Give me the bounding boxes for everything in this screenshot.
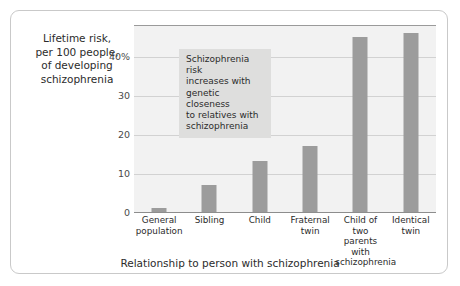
chart-figure: Lifetime risk, per 100 people, of develo… — [10, 10, 448, 274]
bar-sibling[interactable] — [202, 185, 217, 212]
category-label-line: twin — [386, 226, 436, 237]
annotation-line: to relatives with — [186, 110, 265, 121]
annotation-line: Schizophrenia risk — [186, 54, 265, 76]
category-label-line: Child — [235, 215, 285, 226]
category-label-line: parents with — [335, 236, 385, 257]
bar-child[interactable] — [252, 161, 267, 212]
bar-slot — [285, 25, 335, 212]
bar-slot — [335, 25, 385, 212]
x-axis-category-labels: GeneralpopulationSiblingChildFraternaltw… — [134, 215, 436, 257]
category-label-line: Child of two — [335, 215, 385, 236]
category-label-line: Sibling — [184, 215, 234, 226]
category-label: Identicaltwin — [386, 215, 436, 236]
annotation-line: schizophrenia — [186, 121, 265, 132]
y-tick-label-40: 40% — [90, 51, 130, 62]
bar-slot — [386, 25, 436, 212]
bar-slot — [134, 25, 184, 212]
category-label-line: General — [134, 215, 184, 226]
y-tick-label-0: 0 — [90, 207, 130, 218]
annotation-line: genetic closeness — [186, 88, 265, 110]
category-label-line: Fraternal — [285, 215, 335, 226]
category-label: Child — [235, 215, 285, 226]
category-label-line: population — [134, 226, 184, 237]
y-tick-label-20: 20 — [90, 129, 130, 140]
category-label: Sibling — [184, 215, 234, 226]
x-axis-line — [134, 212, 436, 213]
x-axis-title: Relationship to person with schizophreni… — [11, 257, 449, 269]
y-tick-label-10: 10 — [90, 168, 130, 179]
bar-child-of-two-parents-with-schizophrenia[interactable] — [353, 37, 368, 212]
y-axis-tick-labels: 010203040% — [86, 11, 130, 275]
category-label-line: Identical — [386, 215, 436, 226]
y-tick-label-30: 30 — [90, 90, 130, 101]
bar-fraternal-twin[interactable] — [303, 146, 318, 212]
bar-identical-twin[interactable] — [403, 33, 418, 212]
chart-annotation: Schizophrenia riskincreases withgenetic … — [179, 49, 271, 138]
annotation-line: increases with — [186, 76, 265, 87]
category-label: Generalpopulation — [134, 215, 184, 236]
category-label-line: twin — [285, 226, 335, 237]
bar-general-population[interactable] — [152, 208, 167, 212]
category-label: Fraternaltwin — [285, 215, 335, 236]
